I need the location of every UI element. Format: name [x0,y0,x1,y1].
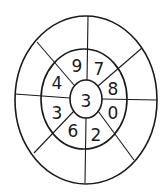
center-number: 3 [81,91,92,111]
segment-number-right-lower: 0 [108,103,119,123]
segment-number-left-lower: 3 [52,103,63,123]
segment-number-top-right: 7 [94,59,105,79]
segment-number-bottom-left: 6 [68,121,79,141]
concentric-number-diagram: 3 9 7 8 0 2 6 3 4 [0,0,167,194]
segment-number-top-left: 9 [72,56,83,76]
segment-number-bottom-right: 2 [91,125,102,145]
segment-number-right-upper: 8 [108,79,119,99]
segment-number-left-upper: 4 [52,73,63,93]
